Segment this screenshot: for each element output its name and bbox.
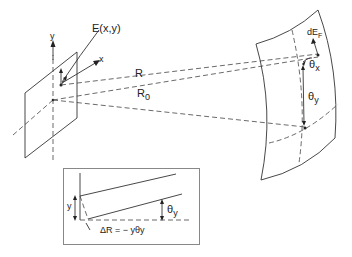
farfield-surface-bottom: [261, 138, 335, 180]
ray-R0: [53, 57, 318, 100]
farfield-center-point: [304, 127, 307, 130]
label-theta-x: θx: [309, 59, 320, 73]
theta-y-arrow-top: [301, 65, 305, 70]
label-dE-main: dE: [307, 27, 318, 37]
label-theta-x-sub: x: [315, 63, 320, 73]
label-R: R: [135, 68, 143, 79]
theta-y-line: [303, 68, 304, 124]
theta-y-arrow-bottom: [302, 121, 306, 126]
label-y-axis: y: [50, 32, 55, 41]
z-axis-dashed: [13, 100, 53, 135]
dE-vector: [314, 42, 318, 55]
aperture-plane: [25, 52, 77, 158]
dE-arrowhead: [311, 38, 316, 44]
label-R0-main: R: [137, 87, 145, 99]
field-vector-up-head: [59, 68, 63, 73]
label-R0: R0: [137, 88, 150, 102]
inset-label-theta-y: θy: [167, 204, 178, 218]
farfield-surface-left: [256, 44, 267, 180]
y-arrowhead: [51, 40, 56, 47]
label-theta-y: θy: [308, 91, 319, 105]
surface-grid-vertical: [292, 30, 302, 163]
inset-label-y: y: [67, 202, 72, 211]
label-field: E(x,y): [92, 23, 121, 34]
x-axis-arrow: [62, 62, 97, 83]
label-dE: dEF: [307, 28, 322, 39]
label-x-axis: x: [99, 55, 104, 64]
inset-theta-sub: y: [173, 208, 178, 218]
label-theta-y-sub: y: [314, 95, 319, 105]
label-dE-sub: F: [318, 32, 322, 39]
label-R0-sub: 0: [145, 92, 150, 102]
field-curve: [62, 30, 99, 82]
inset-label-delta-R: ΔR = − yθy: [100, 226, 145, 235]
